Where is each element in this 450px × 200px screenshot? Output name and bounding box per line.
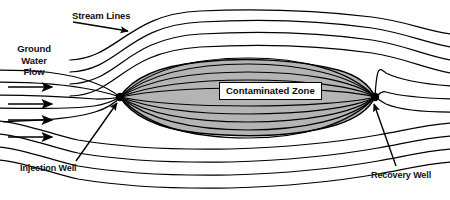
ground-water-flow-label-line-3: Flow	[6, 66, 62, 78]
recovery-well-marker	[371, 93, 379, 101]
stream-lines-leader	[73, 22, 128, 31]
recovery-well-label: Recovery Well	[371, 170, 431, 180]
ground-water-flow-label-line-2: Water	[6, 55, 62, 67]
capture-boundary-right-2	[375, 97, 450, 112]
capture-boundary-right-1	[375, 92, 450, 99]
ground-water-flow-label-line-1: Ground	[6, 43, 62, 55]
stream-lines-label: Stream Lines	[72, 10, 130, 21]
injection-well-label: Injection Well	[20, 163, 76, 173]
capture-boundary-lower-left-3	[4, 97, 120, 122]
capture-boundary-lower-left	[0, 95, 120, 99]
ground-water-flow-label: Ground Water Flow	[6, 43, 62, 78]
cut-off-caption-strip	[0, 191, 450, 200]
capture-boundary-upper-right	[375, 70, 450, 97]
stream-line-below-2	[0, 134, 450, 162]
injection-well-marker	[116, 93, 124, 101]
contaminated-zone-label: Contaminated Zone	[219, 82, 322, 100]
groundwater-diagram-figure: Stream Lines Ground Water Flow Contamina…	[0, 0, 450, 200]
